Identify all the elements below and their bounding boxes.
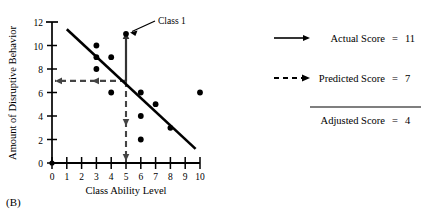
data-point [153,101,159,107]
scatter-plot-figure: 12 10 8 6 4 2 0 Amount of Disruptive Beh… [0,0,425,213]
y-tick-label-0: 0 [38,159,43,169]
legend-label-adjusted-score: Adjusted Score [321,115,386,126]
panel-label: (B) [6,196,21,209]
data-point [94,66,100,72]
origin-point [49,160,54,165]
data-point [138,90,144,96]
data-point [94,43,100,49]
x-tick-label-0: 0 [50,172,55,182]
data-point [168,125,174,131]
data-point [108,90,114,96]
legend-value-actual-score: 11 [405,33,415,44]
y-axis-tick-labels: 12 10 8 6 4 2 0 [34,18,44,169]
x-tick-label-1: 1 [64,172,69,182]
adjusted-score-marker [123,81,130,161]
legend-row-predicted-score: Predicted Score = 7 [274,73,410,84]
y-axis-title: Amount of Disruptive Behavior [7,26,18,160]
legend-equals-actual-score: = [392,33,398,44]
x-tick-label-5: 5 [124,172,129,182]
x-tick-label-8: 8 [168,172,173,182]
y-tick-label-8: 8 [38,65,43,75]
x-axis-tick-labels: 0 1 2 3 4 5 6 7 8 9 10 [50,172,205,182]
solid-arrow-icon [274,35,310,41]
legend: Actual Score = 11 Predicted Score = 7 Ad… [274,33,421,127]
x-tick-label-4: 4 [109,172,114,182]
x-axis-title: Class Ability Level [85,185,166,196]
legend-value-adjusted-score: 4 [405,115,411,126]
data-point [94,54,100,60]
legend-equals-adjusted-score: = [392,115,398,126]
x-tick-label-2: 2 [79,172,84,182]
figure-panel-b: 12 10 8 6 4 2 0 Amount of Disruptive Beh… [0,0,425,213]
data-point [108,54,114,60]
predicted-score-marker [55,78,126,85]
y-tick-label-4: 4 [38,112,43,122]
regression-line [67,29,196,149]
y-tick-label-12: 12 [34,18,44,28]
data-point [138,113,144,119]
x-tick-label-6: 6 [138,172,143,182]
y-tick-label-10: 10 [34,42,44,52]
legend-equals-predicted-score: = [392,73,398,84]
y-axis [46,22,58,163]
data-point [138,137,144,143]
data-point [197,90,203,96]
y-tick-label-2: 2 [38,136,43,146]
class-1-annotation-label: Class 1 [158,16,186,26]
legend-value-predicted-score: 7 [405,73,410,84]
legend-label-predicted-score: Predicted Score [319,73,386,84]
data-point [123,31,129,37]
legend-row-adjusted-score: Adjusted Score = 4 [321,115,411,126]
x-tick-label-9: 9 [183,172,188,182]
actual-score-marker [123,32,130,81]
y-tick-label-6: 6 [38,89,43,99]
x-tick-label-7: 7 [153,172,158,182]
legend-label-actual-score: Actual Score [330,33,385,44]
x-tick-label-10: 10 [195,172,205,182]
legend-row-actual-score: Actual Score = 11 [274,33,415,44]
class-1-annotation: Class 1 [130,16,186,36]
dashed-arrow-icon [274,75,310,82]
x-tick-label-3: 3 [94,172,99,182]
